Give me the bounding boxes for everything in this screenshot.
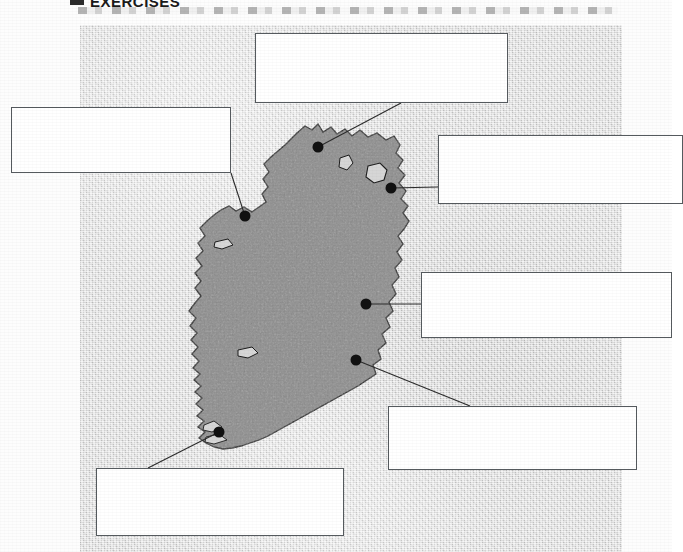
answer-box-north-text [256, 34, 507, 102]
answer-box-southeast[interactable] [388, 406, 637, 470]
map-marker-southeast[interactable] [351, 355, 362, 366]
answer-box-south-text [97, 469, 343, 535]
answer-box-east-text [422, 273, 671, 337]
map-marker-east[interactable] [361, 299, 372, 310]
map-marker-north[interactable] [313, 142, 324, 153]
map-marker-south[interactable] [214, 427, 225, 438]
leader-line-south [148, 432, 219, 468]
answer-box-west[interactable] [11, 107, 231, 173]
answer-box-northeast[interactable] [438, 135, 683, 204]
answer-box-south[interactable] [96, 468, 344, 536]
map-marker-west[interactable] [240, 211, 251, 222]
answer-box-northeast-text [439, 136, 682, 203]
leader-line-southeast [356, 360, 470, 406]
answer-box-north[interactable] [255, 33, 508, 103]
answer-box-west-text [12, 108, 230, 172]
map-marker-northeast[interactable] [386, 183, 397, 194]
answer-box-east[interactable] [421, 272, 672, 338]
answer-box-southeast-text [389, 407, 636, 469]
